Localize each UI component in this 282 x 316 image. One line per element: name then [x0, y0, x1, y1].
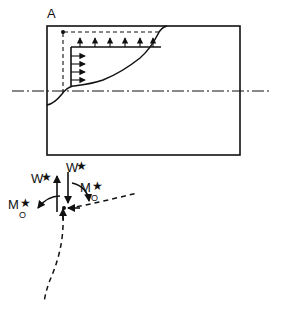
moment-left-subscript: O	[19, 210, 26, 220]
section-label-a: A	[47, 6, 56, 21]
label-moment-left: M ★ O	[8, 196, 31, 220]
figure-canvas: A W ★	[0, 0, 282, 316]
control-volume-corner-dot	[61, 30, 65, 34]
rightward-flux-arrows	[71, 56, 85, 80]
figure-root: A W ★	[0, 0, 282, 316]
moment-left-star: ★	[20, 196, 31, 210]
moment-right-star: ★	[92, 179, 103, 193]
lower-diagram: W ★ W ★ M ★ O M ★ O	[8, 159, 138, 303]
label-force-down: W ★	[66, 159, 87, 175]
dashed-member-right	[68, 193, 138, 208]
moment-right-symbol: M	[80, 180, 91, 195]
upper-diagram: A	[12, 6, 272, 155]
label-force-up: W ★	[31, 170, 52, 186]
free-body-node-dot	[62, 206, 66, 210]
force-down-star: ★	[76, 159, 87, 173]
force-up-star: ★	[41, 170, 52, 184]
dashed-member-lower	[44, 216, 63, 303]
upward-flux-arrows	[80, 38, 153, 47]
velocity-profile-curve	[47, 26, 167, 105]
moment-right-subscript: O	[91, 193, 98, 203]
moment-left-symbol: M	[8, 197, 19, 212]
label-moment-right: M ★ O	[80, 179, 103, 203]
